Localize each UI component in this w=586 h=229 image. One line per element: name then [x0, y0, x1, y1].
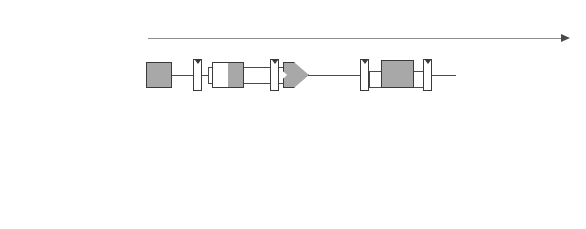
pipeline-latch-id-ex-0	[270, 59, 279, 91]
wire-rf-bus-0	[208, 67, 209, 83]
wire-im-out-0	[172, 75, 195, 76]
im-block-row0	[146, 62, 172, 88]
wire-dm-in-0	[369, 71, 381, 72]
wire-operand-top-0	[244, 67, 272, 68]
pipeline-latch-ex-mem-0	[360, 59, 369, 91]
dm-block-row0	[381, 60, 414, 88]
wire-operand-bot-0	[244, 83, 272, 84]
wire-result-0	[432, 75, 456, 76]
time-axis-arrow-icon	[561, 34, 570, 42]
pipeline-latch-mem-wb-0	[423, 59, 432, 91]
time-axis-line	[148, 38, 563, 39]
clock-notch-icon	[195, 60, 201, 64]
rf-block-row0	[212, 62, 244, 88]
rf-label	[213, 63, 243, 87]
pipeline-latch-if-id-0	[193, 59, 202, 91]
clock-notch-icon	[425, 60, 431, 64]
wire-dm-bypass-v1-0	[369, 71, 370, 87]
wire-alu-out-0	[308, 75, 360, 76]
clock-notch-icon	[272, 60, 278, 64]
pipeline-diagram	[0, 0, 586, 229]
clock-notch-icon	[362, 60, 368, 64]
alu-block-row0	[283, 62, 309, 88]
